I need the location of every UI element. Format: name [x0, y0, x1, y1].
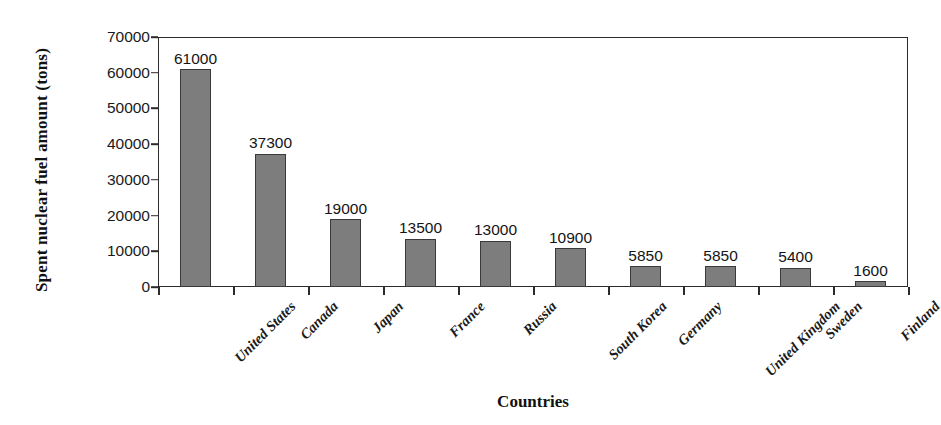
x-tick-mark	[383, 287, 385, 295]
bar-chart: Spent nuclear fuel amount (tons) 0100002…	[0, 0, 941, 425]
x-tick-label: Russia	[519, 298, 560, 339]
x-tick-mark	[233, 287, 235, 295]
x-tick-mark	[158, 287, 160, 295]
x-tick-label: United States	[231, 298, 299, 366]
x-tick-mark	[458, 287, 460, 295]
x-tick-label: Japan	[368, 298, 406, 336]
x-tick-label: Finland	[897, 298, 941, 344]
x-axis-category-labels: United StatesCanadaJapanFranceRussiaSout…	[0, 0, 941, 425]
x-axis-title: Countries	[158, 392, 908, 412]
x-tick-mark	[758, 287, 760, 295]
x-tick-mark	[833, 287, 835, 295]
x-tick-label: France	[445, 298, 488, 341]
x-tick-label: Germany	[674, 298, 725, 349]
x-tick-mark	[683, 287, 685, 295]
x-tick-mark	[908, 287, 910, 295]
x-tick-label: South Korea	[605, 298, 670, 363]
x-tick-mark	[308, 287, 310, 295]
x-tick-mark	[608, 287, 610, 295]
x-tick-mark	[533, 287, 535, 295]
x-tick-label: Canada	[296, 298, 341, 343]
